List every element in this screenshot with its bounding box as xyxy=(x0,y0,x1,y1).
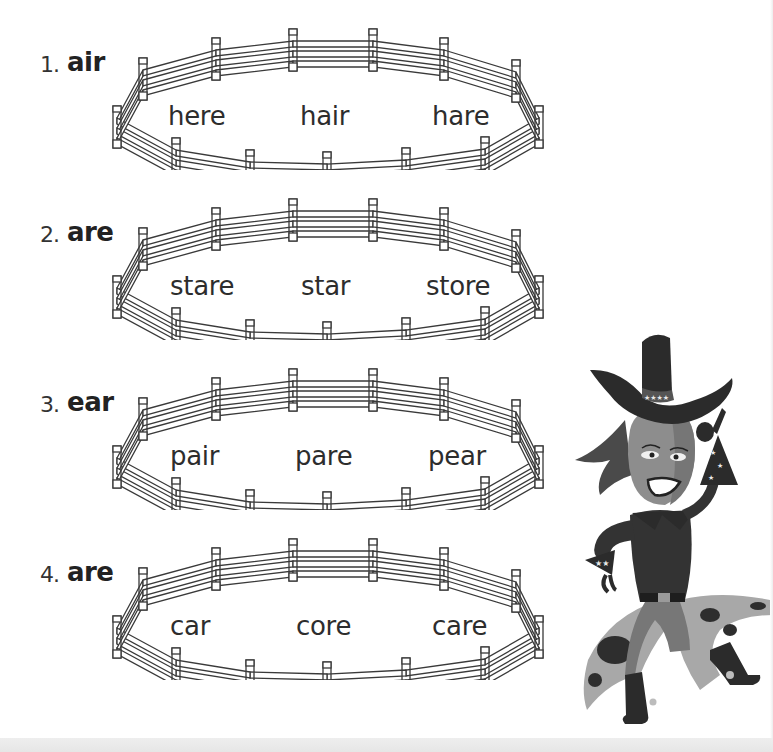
exercise-1: 1. air here hair hare xyxy=(0,0,560,170)
exercise-number: 1. xyxy=(40,52,59,77)
exercise-pattern: are xyxy=(67,217,114,247)
svg-text:★★★★: ★★★★ xyxy=(644,394,669,402)
word-option-1[interactable]: pair xyxy=(166,441,223,471)
word-option-2[interactable]: hair xyxy=(296,101,353,131)
exercise-pattern: air xyxy=(67,47,105,77)
fence-corral-4 xyxy=(0,510,560,680)
svg-text:★: ★ xyxy=(710,449,716,457)
word-option-1[interactable]: here xyxy=(164,101,229,131)
exercise-pattern: are xyxy=(67,557,114,587)
word-option-3[interactable]: store xyxy=(422,271,494,301)
worksheet-page: 1. air here hair hare 2. are stare star … xyxy=(0,0,773,752)
exercise-2: 2. are stare star store xyxy=(0,170,560,340)
cowgirl-illustration: ★★ ★ ★ ★ ★★★★ xyxy=(570,330,773,730)
word-option-1[interactable]: car xyxy=(166,611,214,641)
fence-corral-3 xyxy=(0,340,560,510)
exercise-3: 3. ear pair pare pear xyxy=(0,340,560,510)
fence-corral-2 xyxy=(0,170,560,340)
exercise-pattern: ear xyxy=(67,387,114,417)
exercise-number: 2. xyxy=(40,222,59,247)
fence-corral-1 xyxy=(0,0,560,170)
svg-text:★: ★ xyxy=(708,474,714,482)
word-option-3[interactable]: hare xyxy=(428,101,493,131)
svg-text:★: ★ xyxy=(717,462,723,470)
svg-text:★★: ★★ xyxy=(595,559,609,568)
word-option-3[interactable]: pear xyxy=(424,441,490,471)
word-option-2[interactable]: pare xyxy=(291,441,356,471)
exercise-number: 3. xyxy=(40,392,59,417)
word-option-2[interactable]: core xyxy=(292,611,355,641)
page-bottom-margin xyxy=(0,738,773,752)
word-option-1[interactable]: stare xyxy=(166,271,238,301)
word-option-2[interactable]: star xyxy=(297,271,354,301)
exercise-number: 4. xyxy=(40,562,59,587)
exercise-4: 4. are car core care xyxy=(0,510,560,680)
word-option-3[interactable]: care xyxy=(428,611,491,641)
